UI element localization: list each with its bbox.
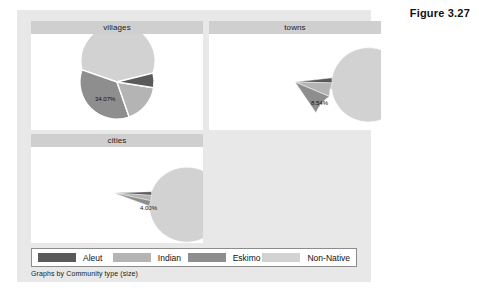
pie-chart-villages: 34.07%: [31, 34, 203, 130]
pie-label-towns-eskimo: 8.54%: [311, 100, 329, 106]
panel-title-cities: cities: [31, 134, 203, 147]
plot-area-villages: 34.07%: [31, 34, 203, 130]
pie-chart-cities: 4.00%: [31, 147, 203, 243]
panel-villages: villages 34.07%: [31, 21, 203, 130]
plot-area-cities: 4.00%: [31, 147, 203, 243]
legend-swatch-eskimo: [188, 253, 226, 262]
graph-caption: Graphs by Community type (size): [31, 270, 138, 277]
legend-item-indian: Indian: [113, 253, 188, 263]
plot-area-towns: 8.54%: [209, 34, 381, 130]
graph-canvas: villages 34.07% towns: [17, 10, 371, 282]
panel-towns: towns 8.54%: [209, 21, 381, 130]
panel-title-towns: towns: [209, 21, 381, 34]
panel-title-villages: villages: [31, 21, 203, 34]
chart-legend: Aleut Indian Eskimo Non-Native: [31, 248, 357, 267]
legend-swatch-aleut: [38, 253, 76, 262]
pie-slice-cities-non-native: [114, 167, 203, 242]
legend-swatch-non-native: [262, 253, 300, 262]
panel-cities: cities 4.00%: [31, 134, 203, 243]
legend-label-indian: Indian: [158, 253, 181, 263]
legend-label-eskimo: Eskimo: [233, 253, 261, 263]
pie-chart-towns: 8.54%: [209, 34, 381, 130]
pie-label-villages-eskimo: 34.07%: [95, 96, 116, 102]
legend-item-eskimo: Eskimo: [188, 253, 263, 263]
legend-label-non-native: Non-Native: [307, 253, 350, 263]
figure-number: Figure 3.27: [410, 7, 470, 19]
legend-item-non-native: Non-Native: [262, 253, 350, 263]
legend-item-aleut: Aleut: [38, 253, 113, 263]
legend-label-aleut: Aleut: [83, 253, 102, 263]
pie-label-cities-eskimo: 4.00%: [140, 205, 158, 211]
legend-swatch-indian: [113, 253, 151, 262]
